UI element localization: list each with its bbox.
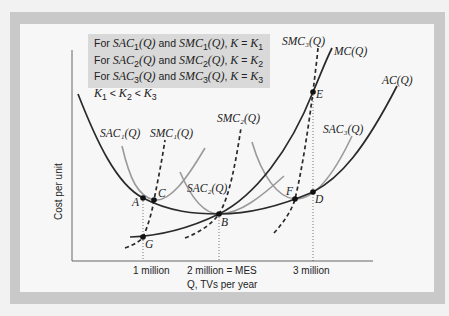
smc2-label: SMC₂(Q) [217,112,260,125]
mc-label: MC(Q) [333,45,367,58]
smc3-curve [274,48,318,233]
point-b-label: B [221,216,228,228]
point-d-label: D [314,193,324,205]
smc1-label: SMC₁(Q) [150,127,193,140]
point-f-label: F [285,185,294,197]
point-g-label: G [145,238,154,250]
point-e-marker [310,89,316,95]
x-tick-1-million: 1 million [133,265,170,276]
sac2-label: SAC₂(Q) [187,182,228,195]
ac-label: AC(Q) [381,74,413,87]
point-a-marker [140,195,146,201]
smc3-label: SMC₃(Q) [282,35,325,48]
ac-curve [78,86,397,214]
point-a-label: A [131,196,140,208]
point-e-label: E [315,88,323,100]
y-axis-label: Cost per unit [53,163,64,220]
sac1-label: SAC₁(Q) [100,127,141,140]
x-axis-label: Q, TVs per year [187,279,258,290]
point-c-marker [151,197,157,203]
x-tick-2-million-mes: 2 million = MES [187,265,257,276]
sac3-label: SAC₃(Q) [323,123,364,136]
point-c-label: C [158,187,166,199]
mc-curve [130,48,332,237]
cost-curves-chart: A C G B F D E SAC₁(Q) SMC₁(Q) SMC₂(Q) SA… [0,0,449,316]
x-tick-3-million: 3 million [293,265,330,276]
point-f-marker [292,196,298,202]
